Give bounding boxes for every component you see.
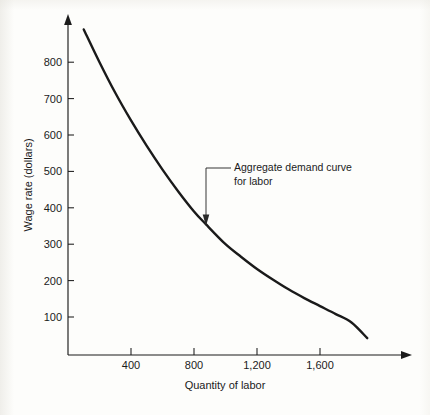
y-tick-label-800: 800: [44, 56, 62, 68]
y-axis-arrowhead-icon: [64, 14, 72, 25]
y-tick-label-100: 100: [44, 311, 62, 323]
x-tick-label-1600: 1,600: [306, 359, 334, 371]
annotation-leader-line: [206, 168, 231, 217]
labor-demand-chart: 800 700 600 500 400 300 200 100 Wage rat…: [0, 0, 430, 415]
y-tick-label-200: 200: [44, 275, 62, 287]
chart-screenshot: 800 700 600 500 400 300 200 100 Wage rat…: [0, 0, 430, 415]
demand-curve-group: [84, 29, 368, 338]
y-tick-label-600: 600: [44, 129, 62, 141]
x-tick-label-400: 400: [122, 359, 140, 371]
aggregate-demand-curve: [84, 29, 368, 338]
x-axis-arrowhead-icon: [401, 351, 412, 359]
annotation-arrowhead-icon: [203, 215, 210, 227]
x-axis-group: 400 800 1,200 1,600 Quantity of labor: [68, 348, 412, 391]
annotation-group: Aggregate demand curve for labor: [203, 161, 352, 226]
y-tick-label-400: 400: [44, 202, 62, 214]
annotation-label-line1: Aggregate demand curve: [234, 161, 352, 173]
y-tick-label-300: 300: [44, 238, 62, 250]
x-tick-label-1200: 1,200: [243, 359, 271, 371]
x-axis-title: Quantity of labor: [185, 379, 266, 391]
y-axis-group: 800 700 600 500 400 300 200 100 Wage rat…: [22, 14, 74, 355]
y-axis-title: Wage rate (dollars): [22, 138, 34, 231]
y-tick-label-500: 500: [44, 165, 62, 177]
y-tick-label-700: 700: [44, 93, 62, 105]
annotation-label-line2: for labor: [234, 175, 273, 187]
x-tick-label-800: 800: [185, 359, 203, 371]
